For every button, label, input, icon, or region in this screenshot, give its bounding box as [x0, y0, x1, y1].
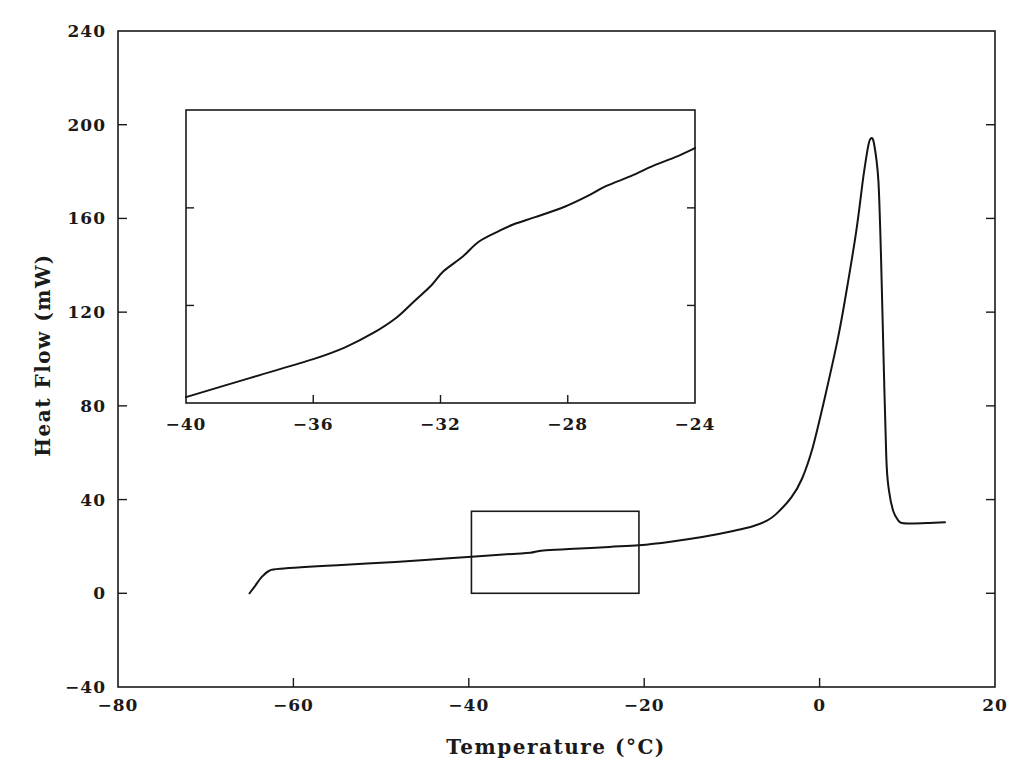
inset-x-tick-label: −24 — [675, 414, 716, 434]
y-tick-label: 0 — [93, 583, 106, 603]
y-axis-title: Heat Flow (mW) — [31, 253, 55, 457]
inset-background — [186, 110, 695, 403]
dsc-chart: −80−60−40−20020 −4004080120160200240 −40… — [0, 0, 1025, 783]
x-tick-label: −60 — [273, 695, 314, 715]
y-tick-label: 200 — [68, 115, 107, 135]
y-tick-label: 160 — [68, 208, 107, 228]
y-tick-label: 120 — [68, 302, 107, 322]
inset-x-tick-label: −36 — [293, 414, 334, 434]
x-tick-label: −80 — [98, 695, 139, 715]
y-tick-label: 80 — [80, 396, 106, 416]
y-tick-label: 40 — [80, 490, 106, 510]
inset-plot: −40−36−32−28−24 — [166, 110, 716, 434]
y-tick-label: −40 — [65, 677, 106, 697]
main-x-axis-ticks: −80−60−40−20020 — [98, 678, 1008, 715]
x-axis-title: Temperature (°C) — [446, 735, 666, 759]
inset-x-tick-label: −28 — [547, 414, 588, 434]
inset-x-tick-label: −32 — [420, 414, 461, 434]
x-tick-label: 0 — [813, 695, 826, 715]
x-tick-label: −40 — [448, 695, 489, 715]
zoom-region-rectangle — [471, 511, 639, 593]
inset-x-tick-label: −40 — [166, 414, 207, 434]
x-tick-label: 20 — [982, 695, 1008, 715]
y-tick-label: 240 — [68, 21, 107, 41]
x-tick-label: −20 — [624, 695, 665, 715]
